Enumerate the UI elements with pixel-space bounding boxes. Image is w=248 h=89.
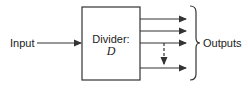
divider-diagram: Input Divider: D Outputs bbox=[0, 0, 248, 89]
divider-symbol: D bbox=[106, 44, 116, 58]
outputs-brace bbox=[190, 6, 200, 80]
input-label: Input bbox=[10, 37, 34, 49]
outputs-label: Outputs bbox=[203, 37, 242, 49]
